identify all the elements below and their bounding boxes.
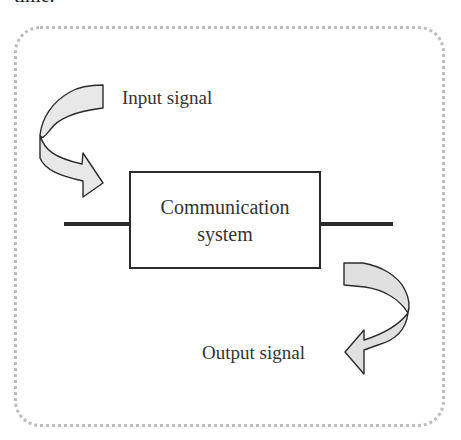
communication-system-box xyxy=(130,172,320,268)
input-arrow-icon xyxy=(40,85,103,197)
diagram-canvas: Communication system Input signal Output… xyxy=(0,0,461,440)
output-arrow-icon xyxy=(344,263,409,374)
box-label-line1: Communication xyxy=(161,196,290,218)
output-signal-label: Output signal xyxy=(202,342,305,363)
input-signal-label: Input signal xyxy=(122,87,212,108)
box-label-line2: system xyxy=(197,223,253,246)
